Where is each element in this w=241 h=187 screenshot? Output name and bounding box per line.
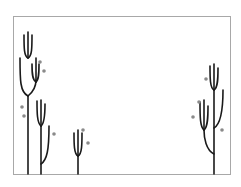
spore-dot	[22, 114, 26, 118]
spore-dot	[20, 105, 24, 109]
spore-dot	[204, 77, 208, 81]
spore-dot	[86, 141, 90, 145]
spore-dot	[38, 60, 42, 64]
spore-dot	[52, 132, 56, 136]
spore-dot	[81, 128, 85, 132]
spore-dot	[197, 100, 201, 104]
spore-dot	[191, 115, 195, 119]
spore-dot	[42, 69, 46, 73]
diagram-frame	[14, 17, 231, 175]
plant-diagram	[0, 0, 241, 187]
spore-dot	[220, 128, 224, 132]
